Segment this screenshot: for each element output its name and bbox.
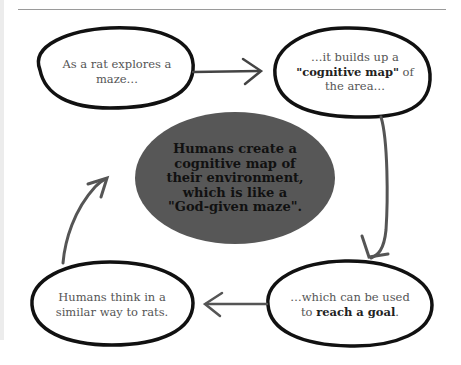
center-line-1: Humans create a xyxy=(145,142,325,157)
arrow-down-icon xyxy=(362,117,388,258)
node-rat-explores: As a rat explores a maze… xyxy=(52,57,182,86)
node-cognitive-map-line1: …it builds up a xyxy=(285,50,425,65)
node-humans-think-line1: Humans think in a xyxy=(42,290,182,305)
reach-goal-emphasis: reach a goal xyxy=(316,305,395,319)
cognitive-map-of: of xyxy=(399,65,414,79)
reach-goal-period: . xyxy=(395,305,399,319)
node-humans-think-line2: similar way to rats. xyxy=(42,305,182,320)
center-line-5: "God-given maze". xyxy=(145,200,325,215)
node-reach-goal-line1: …which can be used xyxy=(280,290,420,305)
node-reach-goal-line2: to reach a goal. xyxy=(280,305,420,320)
center-line-3: their environment, xyxy=(145,171,325,186)
center-line-4: which is like a xyxy=(145,186,325,201)
arrow-left-icon xyxy=(205,293,267,316)
center-statement: Humans create a cognitive map of their e… xyxy=(145,142,325,215)
arrow-up-icon xyxy=(63,178,107,263)
node-humans-think: Humans think in a similar way to rats. xyxy=(42,290,182,319)
arrow-right-icon xyxy=(193,59,261,84)
node-rat-explores-line2: maze… xyxy=(52,72,182,87)
node-cognitive-map: …it builds up a "cognitive map" of the a… xyxy=(285,50,425,94)
node-reach-goal: …which can be used to reach a goal. xyxy=(280,290,420,319)
center-line-2: cognitive map of xyxy=(145,157,325,172)
cognitive-map-emphasis: "cognitive map" xyxy=(296,65,399,79)
reach-goal-to: to xyxy=(301,305,316,319)
node-cognitive-map-line2: "cognitive map" of xyxy=(285,65,425,80)
node-cognitive-map-line3: the area… xyxy=(285,79,425,94)
node-rat-explores-line1: As a rat explores a xyxy=(52,57,182,72)
